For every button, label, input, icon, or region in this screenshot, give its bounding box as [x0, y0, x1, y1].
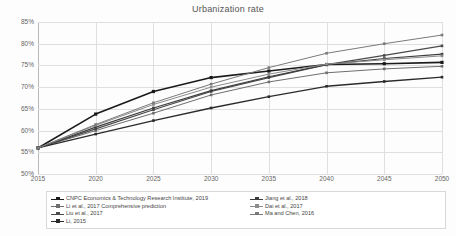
legend-item[interactable]: Li, 2015 [51, 218, 86, 226]
series-marker [383, 68, 386, 71]
y-axis-labels: 85%80%75%70%65%60%55%50% [0, 22, 34, 174]
y-axis-tick-label: 80% [0, 41, 34, 48]
x-axis-tick-label: 2020 [76, 176, 116, 183]
series-lines [38, 22, 442, 174]
series-marker [325, 85, 328, 88]
legend-item[interactable]: Ma and Chen, 2016 [250, 210, 314, 218]
y-axis-tick-label: 85% [0, 19, 34, 26]
series-marker [210, 94, 213, 97]
series-marker [441, 65, 444, 68]
plot-area [38, 22, 442, 174]
series-marker [268, 95, 271, 98]
y-axis-tick-label: 60% [0, 128, 34, 135]
series-marker [37, 147, 40, 150]
series-marker [383, 80, 386, 83]
series-marker [152, 90, 155, 93]
legend-label: Dai et al., 2017 [265, 204, 303, 210]
legend-swatch-icon [250, 210, 263, 218]
chart-legend: CNPC Economics & Technology Research Ins… [46, 191, 446, 229]
x-axis-labels: 20152020202520302035204020452050 [38, 176, 442, 188]
series-line [38, 46, 442, 148]
legend-items: CNPC Economics & Technology Research Ins… [47, 192, 445, 228]
series-marker [210, 89, 213, 92]
series-marker [325, 63, 328, 66]
series-marker [268, 66, 271, 69]
series-marker [325, 52, 328, 55]
series-marker [383, 58, 386, 61]
series-marker [152, 119, 155, 122]
series-marker [210, 76, 213, 79]
x-axis-tick-label: 2040 [307, 176, 347, 183]
series-marker [152, 107, 155, 110]
series-marker [210, 86, 213, 89]
series-marker [94, 133, 97, 136]
series-marker [267, 69, 270, 72]
series-marker [383, 54, 386, 57]
urbanization-rate-chart: Urbanization rate 85%80%75%70%65%60%55%5… [0, 0, 456, 236]
series-marker [94, 123, 97, 126]
series-marker [268, 73, 271, 76]
legend-label: Li, 2015 [66, 219, 86, 225]
series-marker [210, 107, 213, 110]
series-marker [441, 55, 444, 58]
series-line [38, 66, 442, 148]
x-axis-tick-label: 2025 [133, 176, 173, 183]
series-marker [325, 72, 328, 75]
x-axis-tick-label: 2035 [249, 176, 289, 183]
series-marker [152, 101, 155, 104]
legend-label: Liu et al., 2017 [66, 211, 103, 217]
x-axis-tick-label: 2045 [364, 176, 404, 183]
y-axis-tick-label: 55% [0, 149, 34, 156]
legend-label: Ma and Chen, 2016 [265, 211, 314, 217]
chart-title: Urbanization rate [0, 4, 456, 14]
series-marker [268, 75, 271, 78]
series-marker [441, 34, 444, 37]
x-axis-tick-label: 2050 [422, 176, 456, 183]
legend-label: Li et al., 2017 Comprehensive prediction [66, 204, 166, 210]
series-marker [94, 112, 97, 115]
y-axis-tick-label: 65% [0, 106, 34, 113]
y-axis-tick-label: 75% [0, 62, 34, 69]
series-marker [210, 83, 213, 86]
legend-swatch-icon [51, 218, 64, 226]
series-marker [441, 45, 444, 48]
series-marker [383, 42, 386, 45]
series-marker [152, 112, 155, 115]
y-axis-tick-label: 70% [0, 84, 34, 91]
series-marker [440, 61, 443, 64]
x-axis-tick-label: 2015 [18, 176, 58, 183]
series-marker [383, 62, 386, 65]
legend-label: CNPC Economics & Technology Research Ins… [66, 196, 208, 202]
legend-label: Jiang et al., 2018 [265, 196, 308, 202]
series-line [38, 62, 442, 148]
series-marker [441, 76, 444, 79]
series-line [38, 35, 442, 148]
x-axis-tick-label: 2030 [191, 176, 231, 183]
series-marker [268, 81, 271, 84]
